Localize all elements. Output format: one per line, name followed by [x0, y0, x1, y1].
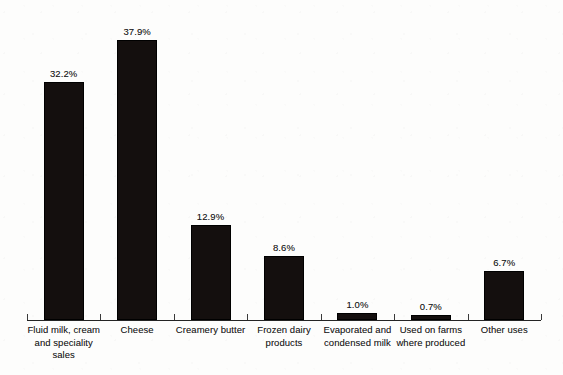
bar-slot: 1.0% — [321, 14, 394, 320]
category-label-line: and speciality — [27, 337, 100, 350]
category-label: Creamery butter — [174, 324, 247, 337]
category-label-line: condensed milk — [321, 337, 394, 350]
bar-slot: 0.7% — [394, 14, 467, 320]
category-label-line: Frozen dairy — [247, 324, 320, 337]
category-label: Fluid milk, creamand specialitysales — [27, 324, 100, 362]
plot-area: 32.2%37.9%12.9%8.6%1.0%0.7%6.7% — [27, 14, 541, 320]
bar-column[interactable]: 8.6% — [264, 14, 304, 320]
bar-column[interactable]: 12.9% — [191, 14, 231, 320]
axis-tick — [394, 314, 395, 320]
category-label: Used on farmswhere produced — [394, 324, 467, 349]
category-label: Other uses — [468, 324, 541, 337]
bar-column[interactable]: 0.7% — [411, 14, 451, 320]
category-label: Cheese — [100, 324, 173, 337]
axis-tick — [27, 314, 28, 320]
category-label-line: products — [247, 337, 320, 350]
axis-tick — [321, 314, 322, 320]
bar-rect[interactable] — [117, 40, 157, 320]
bar-value-label: 8.6% — [273, 242, 295, 253]
bar-rect[interactable] — [191, 225, 231, 320]
bar-slot: 8.6% — [247, 14, 320, 320]
category-label-line: Fluid milk, cream — [27, 324, 100, 337]
bar-rect[interactable] — [264, 256, 304, 320]
bar-value-label: 37.9% — [123, 26, 150, 37]
category-label-line: Evaporated and — [321, 324, 394, 337]
axis-tick — [174, 314, 175, 320]
bar-rect[interactable] — [337, 313, 377, 320]
category-label-line: Used on farms — [394, 324, 467, 337]
bar-value-label: 32.2% — [50, 68, 77, 79]
bar-value-label: 12.9% — [197, 211, 224, 222]
category-label: Frozen dairyproducts — [247, 324, 320, 349]
axis-tick — [247, 314, 248, 320]
axis-tick — [541, 314, 542, 320]
x-axis-category-labels: Fluid milk, creamand specialitysalesChee… — [27, 324, 541, 374]
category-label-line: Cheese — [100, 324, 173, 337]
bar-value-label: 0.7% — [420, 301, 442, 312]
axis-tick — [100, 314, 101, 320]
axis-tick — [468, 314, 469, 320]
bar-value-label: 1.0% — [346, 299, 368, 310]
category-label-line: Other uses — [468, 324, 541, 337]
bar-slot: 32.2% — [27, 14, 100, 320]
bar-rect[interactable] — [44, 82, 84, 320]
bar-column[interactable]: 1.0% — [337, 14, 377, 320]
category-label-line: where produced — [394, 337, 467, 350]
x-axis-line — [27, 320, 541, 321]
category-label: Evaporated andcondensed milk — [321, 324, 394, 349]
bar-slot: 37.9% — [100, 14, 173, 320]
bar-chart: 32.2%37.9%12.9%8.6%1.0%0.7%6.7% Fluid mi… — [0, 0, 563, 375]
category-label-line: sales — [27, 349, 100, 362]
bar-value-label: 6.7% — [493, 257, 515, 268]
bar-column[interactable]: 37.9% — [117, 14, 157, 320]
bar-rect[interactable] — [484, 271, 524, 320]
bar-column[interactable]: 32.2% — [44, 14, 84, 320]
bar-column[interactable]: 6.7% — [484, 14, 524, 320]
category-label-line: Creamery butter — [174, 324, 247, 337]
bar-slot: 12.9% — [174, 14, 247, 320]
bar-slot: 6.7% — [468, 14, 541, 320]
